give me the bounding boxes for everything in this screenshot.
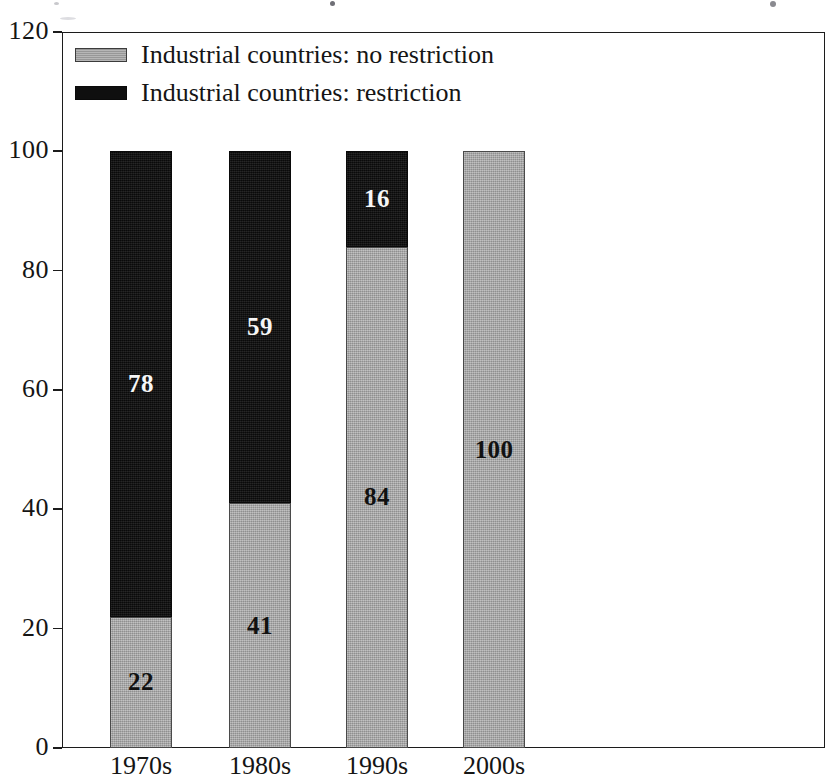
bar-value-label: 78 [128, 371, 154, 397]
bar-value-label: 16 [364, 186, 390, 212]
legend-label-no-restriction: Industrial countries: no restriction [141, 41, 494, 69]
legend-swatch-icon-gray [75, 48, 127, 62]
bar-segment[interactable]: 16 [346, 151, 408, 246]
y-tick-label: 80 [22, 256, 49, 284]
y-tick-mark [53, 508, 62, 510]
y-tick-mark [53, 628, 62, 630]
y-tick-mark [53, 747, 62, 749]
bar-segment[interactable]: 59 [229, 151, 291, 503]
bar-value-label: 59 [247, 314, 273, 340]
y-tick-mark [53, 31, 62, 33]
bar-segment[interactable]: 41 [229, 503, 291, 748]
y-tick-label: 20 [22, 614, 49, 642]
bar-group[interactable]: 2278 [110, 32, 172, 748]
y-tick-label: 0 [36, 733, 50, 761]
legend-label-restriction: Industrial countries: restriction [141, 79, 462, 107]
bar-group[interactable]: 100 [463, 32, 525, 748]
bar-value-label: 41 [247, 613, 273, 639]
bar-segment[interactable]: 84 [346, 247, 408, 748]
scan-artifact-strip [0, 0, 835, 24]
bar-group[interactable]: 4159 [229, 32, 291, 748]
chart-legend: Industrial countries: no restriction Ind… [75, 40, 494, 108]
bar-value-label: 84 [364, 484, 390, 510]
stacked-bar-chart: 020406080100120 227841598416100 1970s198… [0, 0, 835, 779]
y-tick-label: 120 [9, 17, 50, 45]
legend-item-restriction[interactable]: Industrial countries: restriction [75, 78, 494, 108]
y-tick-label: 100 [9, 136, 50, 164]
y-tick-mark [53, 150, 62, 152]
y-tick-label: 60 [22, 375, 49, 403]
bar-segment[interactable]: 22 [110, 617, 172, 748]
bars-layer: 227841598416100 [62, 32, 825, 748]
y-tick-mark [53, 389, 62, 391]
bar-segment[interactable]: 100 [463, 151, 525, 748]
legend-swatch-icon-black [75, 86, 127, 100]
legend-item-no-restriction[interactable]: Industrial countries: no restriction [75, 40, 494, 70]
bar-value-label: 100 [475, 437, 514, 463]
bar-value-label: 22 [128, 669, 154, 695]
bar-group[interactable]: 8416 [346, 32, 408, 748]
bar-segment[interactable]: 78 [110, 151, 172, 616]
y-tick-label: 40 [22, 494, 49, 522]
y-tick-mark [53, 270, 62, 272]
x-axis-label: 2000s [424, 752, 564, 779]
